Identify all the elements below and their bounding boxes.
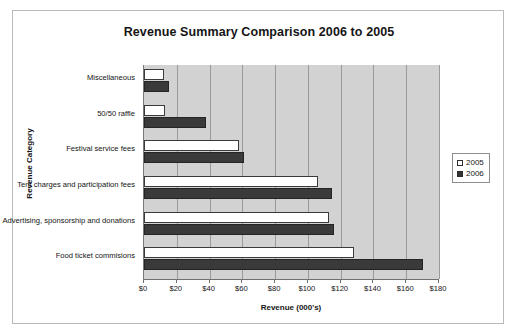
x-tick-mark	[241, 279, 242, 283]
legend-entry-2005: 2005	[457, 157, 484, 168]
bar-2006	[144, 259, 423, 270]
bar-group	[144, 208, 439, 244]
bar-2005	[144, 247, 354, 258]
bar-group	[144, 65, 439, 101]
x-tick-mark	[307, 279, 308, 283]
plot-area	[143, 65, 439, 279]
bar-2005	[144, 105, 165, 116]
legend-swatch-2006-icon	[457, 171, 463, 177]
bar-2005	[144, 69, 164, 80]
bar-2006	[144, 152, 244, 163]
category-label: Miscellaneous	[0, 73, 135, 83]
x-axis-line	[143, 279, 439, 280]
bar-group	[144, 136, 439, 172]
category-label: Advertising, sponsorship and donations	[0, 216, 135, 226]
x-tick-mark	[340, 279, 341, 283]
x-tick-mark	[274, 279, 275, 283]
bar-2005	[144, 140, 239, 151]
category-label: Tent charges and participation fees	[0, 180, 135, 190]
legend-swatch-2005-icon	[457, 160, 463, 166]
x-tick-mark	[209, 279, 210, 283]
bar-2006	[144, 188, 332, 199]
bar-group	[144, 101, 439, 137]
gridline	[439, 65, 440, 279]
chart-title: Revenue Summary Comparison 2006 to 2005	[13, 25, 505, 39]
x-tick-mark	[372, 279, 373, 283]
bar-2005	[144, 176, 318, 187]
legend-entry-2006: 2006	[457, 168, 484, 179]
bar-2006	[144, 81, 169, 92]
y-axis-title: Revenue Category	[25, 109, 34, 219]
legend-label-2006: 2006	[466, 168, 484, 179]
chart-legend: 2005 2006	[452, 153, 490, 183]
x-tick-mark	[176, 279, 177, 283]
category-label: Festival service fees	[0, 144, 135, 154]
bar-group	[144, 172, 439, 208]
x-tick-label: $180	[418, 284, 458, 293]
chart-frame: Revenue Summary Comparison 2006 to 2005 …	[12, 10, 504, 324]
bar-2006	[144, 117, 206, 128]
category-label: Food ticket commisions	[0, 251, 135, 261]
x-axis-title: Revenue (000's)	[143, 303, 439, 312]
x-tick-mark	[438, 279, 439, 283]
x-tick-mark	[143, 279, 144, 283]
bar-2005	[144, 212, 329, 223]
bar-group	[144, 243, 439, 279]
x-tick-mark	[405, 279, 406, 283]
chart-page: Revenue Summary Comparison 2006 to 2005 …	[0, 0, 516, 336]
category-label: 50/50 raffle	[0, 109, 135, 119]
legend-label-2005: 2005	[466, 157, 484, 168]
bar-2006	[144, 224, 334, 235]
